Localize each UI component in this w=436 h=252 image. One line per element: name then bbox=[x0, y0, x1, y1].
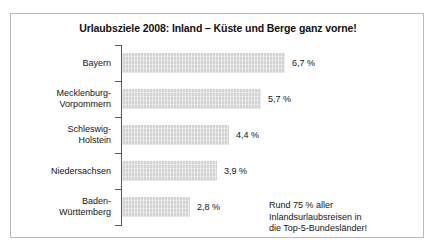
bar-value-label: 4,4 % bbox=[236, 125, 259, 145]
category-label: Baden-Württemberg bbox=[0, 189, 111, 225]
category-label-line: Bayern bbox=[82, 58, 111, 69]
category-label: Bayern bbox=[0, 45, 111, 81]
category-label-line: Mecklenburg- bbox=[56, 88, 111, 99]
bar-row: Niedersachsen3,9 % bbox=[11, 153, 425, 189]
bar bbox=[122, 89, 261, 109]
bar-row: Schleswig-Holstein4,4 % bbox=[11, 117, 425, 153]
bar-value-label: 5,7 % bbox=[268, 89, 291, 109]
category-label: Niedersachsen bbox=[0, 153, 111, 189]
annotation-line: Rund 75 % aller bbox=[269, 200, 367, 212]
bar bbox=[122, 161, 217, 181]
category-label-line: Schleswig- bbox=[67, 124, 111, 135]
bar-row: Bayern6,7 % bbox=[11, 45, 425, 81]
bar-value-label: 3,9 % bbox=[224, 161, 247, 181]
category-label-line: Niedersachsen bbox=[51, 166, 111, 177]
category-label-line: Baden- bbox=[82, 196, 111, 207]
chart-title: Urlaubsziele 2008: Inland – Küste und Be… bbox=[11, 22, 425, 34]
bar-value-label: 6,7 % bbox=[292, 53, 315, 73]
category-label-line: Vorpommern bbox=[59, 99, 111, 110]
annotation-note: Rund 75 % allerInlandsurlaubsreisen indi… bbox=[269, 200, 367, 235]
bar bbox=[122, 197, 190, 217]
annotation-line: die Top-5-Bundesländer! bbox=[269, 223, 367, 235]
bar-row: Mecklenburg-Vorpommern5,7 % bbox=[11, 81, 425, 117]
bar bbox=[122, 53, 285, 73]
bar-value-label: 2,8 % bbox=[197, 197, 220, 217]
category-label-line: Württemberg bbox=[59, 207, 111, 218]
bar bbox=[122, 125, 229, 145]
chart-figure: Urlaubsziele 2008: Inland – Küste und Be… bbox=[10, 13, 424, 238]
category-label-line: Holstein bbox=[78, 135, 111, 146]
category-label: Mecklenburg-Vorpommern bbox=[0, 81, 111, 117]
axis-tick bbox=[115, 225, 122, 226]
annotation-line: Inlandsurlaubsreisen in bbox=[269, 212, 367, 224]
category-label: Schleswig-Holstein bbox=[0, 117, 111, 153]
